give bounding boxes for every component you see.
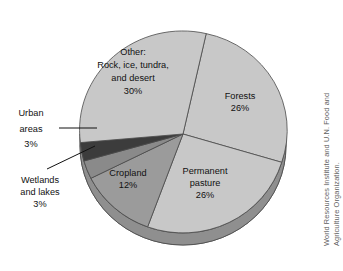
- slice-label-permanent-pasture-line-0: Permanent: [183, 166, 228, 176]
- land-use-pie-chart: Forests 26% Permanent pasture 26% Cropla…: [0, 0, 343, 271]
- slice-label-other-line-3: 30%: [124, 86, 142, 96]
- slice-label-wetlands-line-2: 3%: [33, 199, 46, 209]
- slice-label-forests-line-1: 26%: [231, 103, 249, 113]
- slice-label-cropland-line-0: Cropland: [109, 168, 146, 178]
- source-credit-line-2: Agriculture Organization.: [332, 162, 343, 246]
- source-credit-line-1: World Resources Institute and U.N. Food …: [322, 93, 333, 246]
- slice-label-other-line-1: Rock, ice, tundra,: [97, 60, 169, 70]
- slice-label-cropland-line-1: 12%: [119, 180, 137, 190]
- slice-label-permanent-pasture-line-1: pasture: [190, 178, 221, 188]
- slice-label-wetlands-and-lakes: Wetlands and lakes 3%: [20, 175, 60, 209]
- slice-label-urban-line-2: 3%: [24, 139, 37, 149]
- pie-chart-figure: Forests 26% Permanent pasture 26% Cropla…: [0, 0, 343, 271]
- slice-label-urban-areas: Urban areas 3%: [18, 108, 43, 149]
- slice-label-permanent-pasture-line-2: 26%: [196, 190, 214, 200]
- slice-label-wetlands-line-0: Wetlands: [21, 175, 60, 185]
- slice-label-other-line-0: Other:: [120, 47, 146, 57]
- slice-label-urban-line-0: Urban: [18, 108, 43, 118]
- slice-label-forests-line-0: Forests: [225, 91, 256, 101]
- slice-label-wetlands-line-1: and lakes: [20, 187, 60, 197]
- slice-label-other-line-2: and desert: [111, 73, 155, 83]
- slice-label-urban-line-1: areas: [20, 124, 43, 134]
